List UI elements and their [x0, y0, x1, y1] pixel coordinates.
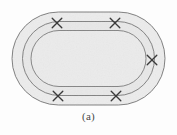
inner-loop-shape — [31, 31, 146, 87]
figure-caption: (a) — [0, 110, 177, 122]
figure-container: (a) — [0, 0, 177, 135]
loops-group — [12, 12, 165, 105]
